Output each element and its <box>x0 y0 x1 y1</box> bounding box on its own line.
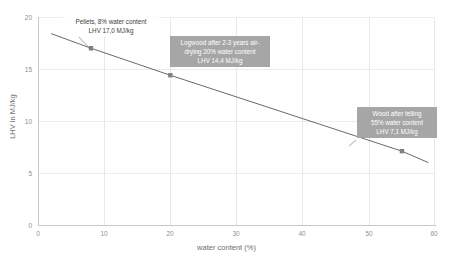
chart-container: 20 15 10 5 0 0 10 20 30 40 50 60 water c… <box>0 0 453 261</box>
annotation-pellets-line1: Pellets, 8% water content <box>67 17 155 26</box>
annotation-pellets-line2: LHV 17,0 MJ/kg <box>67 26 155 35</box>
annotation-logwood-line2: drying 20% water content <box>174 47 266 56</box>
annotation-logwood-line1: Logwood after 2-3 years air- <box>174 38 266 47</box>
annotation-logwood: Logwood after 2-3 years air- drying 20% … <box>170 36 270 67</box>
annotation-green-wood-line3: LHV 7,1 MJ/kg <box>361 127 433 136</box>
leader-line-green-wood <box>349 140 356 146</box>
annotation-green-wood-line2: 55% water content <box>361 118 433 127</box>
leader-line-pellets <box>78 36 92 51</box>
annotation-pellets: Pellets, 8% water content LHV 17,0 MJ/kg <box>63 15 159 37</box>
data-point-3 <box>400 149 404 153</box>
annotation-logwood-line3: LHV 14,4 MJ/kg <box>174 56 266 65</box>
annotation-green-wood-line1: Wood after felling <box>361 109 433 118</box>
annotation-green-wood: Wood after felling 55% water content LHV… <box>357 107 437 138</box>
data-point-2 <box>168 73 172 77</box>
